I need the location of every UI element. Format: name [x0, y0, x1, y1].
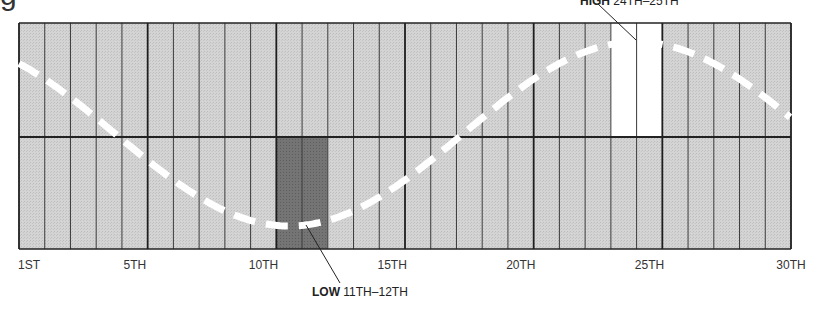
- low-callout: LOW 11TH–12TH: [312, 285, 408, 299]
- high-callout: HIGH 24TH–25TH: [580, 0, 679, 8]
- x-tick-label: 30TH: [776, 258, 805, 272]
- day-column: [302, 137, 328, 249]
- low-range: 11TH–12TH: [340, 285, 408, 299]
- x-tick-label: 5TH: [123, 258, 146, 272]
- high-label: HIGH: [580, 0, 610, 8]
- x-tick-label: 15TH: [377, 258, 406, 272]
- day-column: [276, 137, 302, 249]
- high-range: 24TH–25TH: [610, 0, 679, 8]
- x-tick-label: 10TH: [249, 258, 278, 272]
- low-label: LOW: [312, 285, 340, 299]
- x-tick-label: 20TH: [506, 258, 535, 272]
- x-tick-label: 25TH: [635, 258, 664, 272]
- x-tick-label: 1ST: [18, 258, 40, 272]
